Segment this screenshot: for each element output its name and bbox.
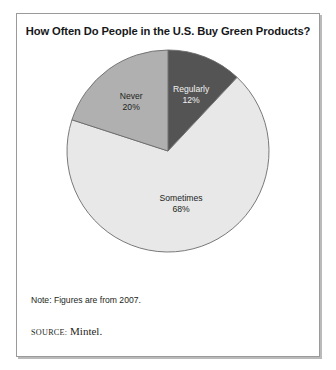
source-value: Mintel. — [70, 325, 102, 337]
source-kicker: source: — [31, 328, 67, 337]
pie-slices-group — [67, 50, 269, 252]
figure-frame: How Often Do People in the U.S. Buy Gree… — [16, 13, 320, 357]
chart-note: Note: Figures are from 2007. — [31, 295, 141, 305]
pie-label-name-sometimes: Sometimes — [160, 193, 203, 203]
pie-label-value-sometimes: 68% — [172, 204, 190, 214]
pie-chart-area: Regularly12%Sometimes68%Never20% — [17, 47, 319, 265]
pie-label-value-regularly: 12% — [182, 95, 200, 105]
pie-label-name-regularly: Regularly — [173, 84, 210, 94]
chart-figure-page: How Often Do People in the U.S. Buy Gree… — [0, 0, 336, 370]
pie-label-value-never: 20% — [123, 102, 141, 112]
pie-label-name-never: Never — [120, 91, 143, 101]
chart-source: source: Mintel. — [31, 325, 102, 337]
pie-chart-svg: Regularly12%Sometimes68%Never20% — [56, 47, 280, 263]
chart-title: How Often Do People in the U.S. Buy Gree… — [17, 25, 319, 37]
